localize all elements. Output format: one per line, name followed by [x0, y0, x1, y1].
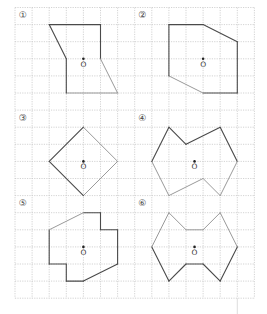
figure-number-label: ② — [138, 10, 146, 20]
figure-1: ①O — [18, 10, 118, 93]
figure-edge — [220, 127, 237, 161]
figure-edge — [203, 264, 220, 281]
figure-number-label: ④ — [138, 113, 146, 123]
center-point-label: O — [200, 60, 206, 69]
figure-6: ⑥O — [137, 198, 237, 281]
figure-number-label: ⑤ — [19, 198, 27, 208]
figure-edge — [220, 161, 237, 195]
figure-edge — [169, 76, 203, 93]
figure-3: ③O — [18, 113, 118, 196]
center-point-label: O — [192, 248, 198, 257]
figure-5: ⑤O — [18, 198, 118, 281]
figure-edge — [203, 179, 220, 196]
figure-edge — [186, 127, 220, 144]
figure-number-label: ⑥ — [138, 198, 146, 208]
figure-4: ④O — [137, 113, 237, 196]
figure-edge — [83, 264, 117, 281]
figure-edge — [203, 213, 220, 230]
center-point-label: O — [80, 248, 86, 257]
figure-edge — [49, 213, 83, 230]
center-point-label: O — [80, 162, 86, 171]
figure-edge — [220, 247, 237, 281]
figure-edge — [169, 213, 186, 230]
figure-2: ②O — [137, 10, 237, 93]
center-point-label: O — [80, 60, 86, 69]
symmetry-figures-diagram: ①O②O③O④O⑤O⑥O — [0, 0, 267, 314]
figure-edge — [169, 264, 186, 281]
figure-number-label: ① — [19, 10, 27, 20]
figure-edge — [101, 59, 118, 93]
figures-group: ①O②O③O④O⑤O⑥O — [18, 10, 238, 281]
figure-edge — [220, 213, 237, 247]
dotted-grid — [15, 8, 254, 314]
figure-number-label: ③ — [19, 113, 27, 123]
center-point-label: O — [192, 162, 198, 171]
figure-edge — [169, 127, 186, 144]
